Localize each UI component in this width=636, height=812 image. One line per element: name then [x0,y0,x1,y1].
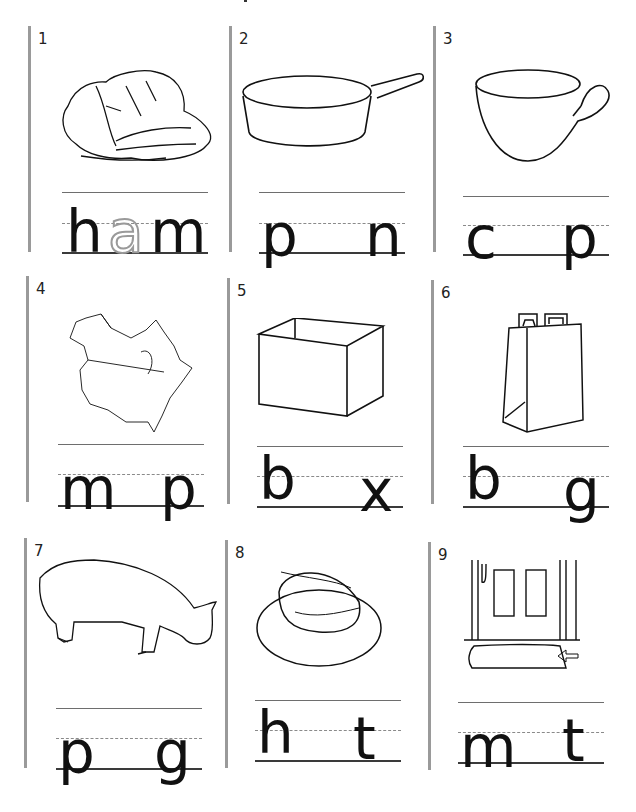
blank-slot[interactable] [311,462,351,512]
item-5: 5 b x [227,278,417,518]
letter-3: x [359,462,393,520]
item-6: 6 b g [431,280,621,520]
blank-slot[interactable] [309,207,349,257]
item-4: 4 m p [26,276,216,516]
letter-3: g [563,462,600,520]
blank-slot[interactable] [515,462,555,512]
letter-1: h [66,203,103,261]
doormat-picture [464,560,604,680]
margin-line [28,26,31,252]
letter-1: b [465,450,502,508]
blank-slot[interactable] [513,209,553,259]
margin-line [431,280,434,504]
box-picture [255,318,395,428]
letter-1: m [60,460,117,518]
letter-3: t [353,710,376,768]
crop-mark [244,0,247,2]
blank-slot[interactable] [110,460,150,510]
letter-1: c [465,209,497,267]
item-1: 1 h a m [28,26,218,266]
map-picture [56,302,196,442]
letter-3: p [561,209,598,267]
letter-1: p [58,724,95,782]
item-number: 4 [36,280,46,298]
letter-1: b [259,450,296,508]
margin-line [227,278,230,504]
ham-picture [46,46,216,176]
traced-letter[interactable]: a [108,203,144,261]
letter-3: g [154,724,191,782]
blank-slot[interactable] [305,716,345,766]
letter-1: m [460,718,517,776]
item-number: 2 [239,30,249,48]
blank-slot[interactable] [108,724,148,774]
pig-picture [34,558,219,668]
item-2: 2 p n [229,26,419,266]
item-number: 6 [441,284,451,302]
item-number: 8 [235,544,245,562]
item-number: 9 [438,546,448,564]
item-number: 3 [443,30,453,48]
item-number: 5 [237,282,247,300]
letter-3: t [562,712,585,770]
margin-line [26,276,29,502]
letter-1: p [261,207,298,265]
margin-line [24,538,27,768]
blank-slot[interactable] [512,718,552,768]
letter-3: m [150,203,207,261]
margin-line [229,26,232,252]
hat-picture [255,562,395,672]
margin-line [225,540,228,768]
letter-3: p [160,460,197,518]
item-8: 8 h t [225,540,415,780]
item-9: 9 m t [428,542,618,782]
bag-picture [497,310,587,440]
item-7: 7 p g [24,538,214,778]
letter-3: n [365,207,402,265]
phonics-worksheet: 1 h a m 2 [0,0,636,812]
cup-picture [473,66,623,176]
pan-picture [239,64,429,174]
margin-line [433,26,436,252]
item-3: 3 c p [433,26,623,266]
letter-1: h [257,704,294,762]
margin-line [428,542,431,770]
